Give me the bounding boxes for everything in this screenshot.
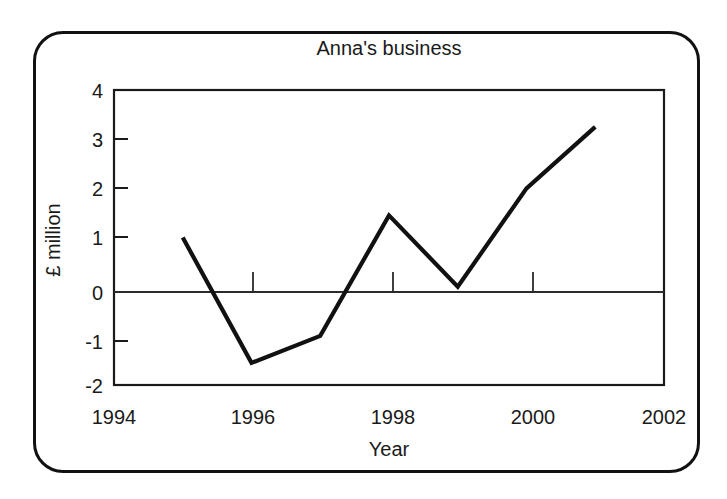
y-tick-label-0: 0 xyxy=(92,282,103,304)
chart-title: Anna's business xyxy=(316,37,461,59)
plot-frame xyxy=(114,90,664,385)
y-tick-label-1: 1 xyxy=(92,227,103,249)
x-axis-ticks xyxy=(253,272,533,292)
y-axis-label: £ million xyxy=(42,203,64,276)
x-tick-label-2002: 2002 xyxy=(642,406,687,428)
line-chart: Anna's business 4 3 2 1 0 -1 - xyxy=(0,0,727,499)
y-axis-tick-labels: 4 3 2 1 0 -1 -2 xyxy=(85,80,103,397)
y-tick-label-3: 3 xyxy=(92,129,103,151)
data-series-line xyxy=(183,127,596,363)
y-axis-ticks xyxy=(114,90,128,385)
x-axis-tick-labels: 1994 1996 1998 2000 2002 xyxy=(92,406,687,428)
y-tick-label-2: 2 xyxy=(92,178,103,200)
chart-page: Anna's business 4 3 2 1 0 -1 - xyxy=(0,0,727,499)
x-tick-label-1996: 1996 xyxy=(231,406,276,428)
x-tick-label-1998: 1998 xyxy=(371,406,416,428)
x-tick-label-2000: 2000 xyxy=(511,406,556,428)
y-tick-label-4: 4 xyxy=(92,80,103,102)
y-tick-label-minus1: -1 xyxy=(85,331,103,353)
x-axis-label: Year xyxy=(369,438,410,460)
x-tick-label-1994: 1994 xyxy=(92,406,137,428)
y-tick-label-minus2: -2 xyxy=(85,375,103,397)
